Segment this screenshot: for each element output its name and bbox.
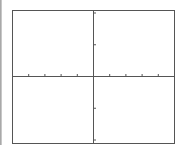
coordinate-plane [0,0,182,152]
